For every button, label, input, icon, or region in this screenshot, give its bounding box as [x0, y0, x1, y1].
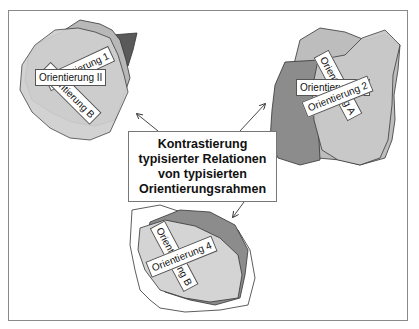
- center-title-line-2: typisierter Relationen: [139, 152, 267, 167]
- center-title-box: Kontrastierung typisierter Relationen vo…: [128, 131, 277, 202]
- center-title-line-4: Orientierungsrahmen: [139, 182, 266, 197]
- center-title-line-1: Kontrastierung: [158, 137, 248, 152]
- arrow-to-bottom: [233, 202, 244, 217]
- center-title-line-3: von typisierten: [158, 167, 247, 182]
- diagram-canvas: Orientierung 1 Orientierung B Orientieru…: [0, 0, 419, 329]
- arrow-to-top-left: [137, 114, 158, 131]
- label-orientierung-ii: Orientierung II: [35, 69, 106, 86]
- arrow-to-top-right: [240, 104, 265, 131]
